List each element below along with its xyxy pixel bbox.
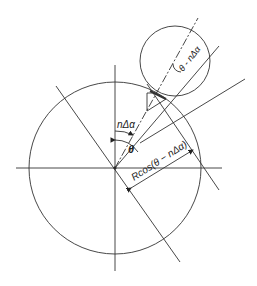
tangent-normal-line <box>147 84 219 190</box>
n-delta-alpha-arc <box>115 131 133 135</box>
label-theta: θ <box>128 143 134 155</box>
label-n-delta-alpha: nΔα <box>117 119 135 130</box>
perpendicular-line <box>56 86 180 262</box>
geometry-diagram: nΔα θ θ - nΔα Rcos(θ − nΔα) <box>0 0 257 286</box>
label-r-cos: Rcos(θ − nΔα) <box>129 138 189 182</box>
theta-arc <box>115 140 138 152</box>
small-circle <box>140 26 210 96</box>
parallel-line <box>140 79 245 143</box>
